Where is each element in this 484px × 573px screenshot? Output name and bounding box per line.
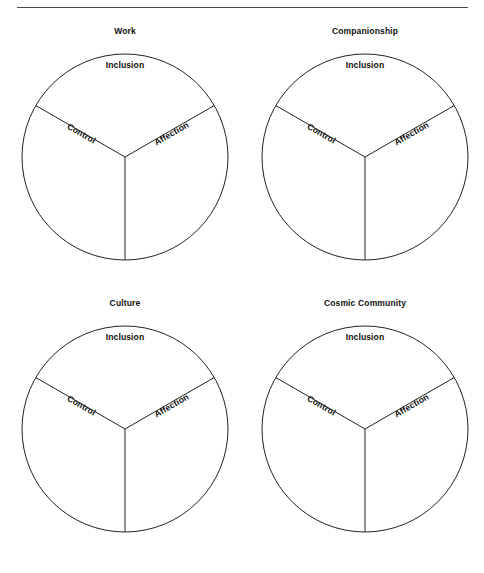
slice-label-control: Control [65, 121, 97, 145]
pie-chart-grid: Work Inclusion Control Affection Compani… [0, 0, 484, 573]
figure-culture: Culture Inclusion Control Affection [4, 290, 246, 573]
figure-companionship: Companionship Inclusion Control Affectio… [244, 18, 484, 304]
pie-diagram: Inclusion Control Affection [244, 290, 484, 573]
pie-diagram: Inclusion Control Affection [4, 290, 246, 573]
slice-label-control: Control [65, 393, 97, 417]
pie-diagram: Inclusion Control Affection [4, 18, 246, 304]
slice-label-inclusion: Inclusion [106, 332, 145, 342]
pie-diagram: Inclusion Control Affection [244, 18, 484, 304]
slice-label-control: Control [305, 393, 337, 417]
slice-label-affection: Affection [392, 392, 430, 420]
slice-label-inclusion: Inclusion [346, 60, 385, 70]
slice-label-inclusion: Inclusion [106, 60, 145, 70]
slice-label-affection: Affection [152, 392, 190, 420]
figure-cosmic-community: Cosmic Community Inclusion Control Affec… [244, 290, 484, 573]
slice-label-affection: Affection [392, 120, 430, 148]
slice-label-inclusion: Inclusion [346, 332, 385, 342]
slice-label-control: Control [305, 121, 337, 145]
slice-label-affection: Affection [152, 120, 190, 148]
figure-work: Work Inclusion Control Affection [4, 18, 246, 304]
